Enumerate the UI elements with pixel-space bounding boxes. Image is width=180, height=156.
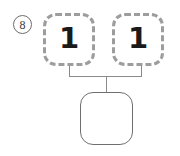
number-bond-part-left[interactable]: 1 bbox=[43, 13, 95, 66]
problem-number-badge: 8 bbox=[13, 15, 32, 34]
connector-center-stem bbox=[106, 76, 107, 93]
number-bond-whole-box[interactable] bbox=[80, 92, 133, 145]
number-bond-part-left-value: 1 bbox=[59, 24, 79, 53]
worksheet-canvas: 8 1 1 bbox=[0, 0, 180, 156]
number-bond-part-right[interactable]: 1 bbox=[112, 13, 164, 66]
number-bond-part-right-value: 1 bbox=[128, 24, 148, 53]
